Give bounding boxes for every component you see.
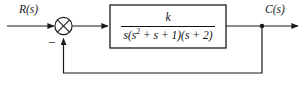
transfer-function-block-outline [110,5,226,48]
block-diagram: R(s) C(s) − k s(s2 + s + 1)(s + 2) [0,0,306,89]
diagram-canvas [0,0,306,89]
